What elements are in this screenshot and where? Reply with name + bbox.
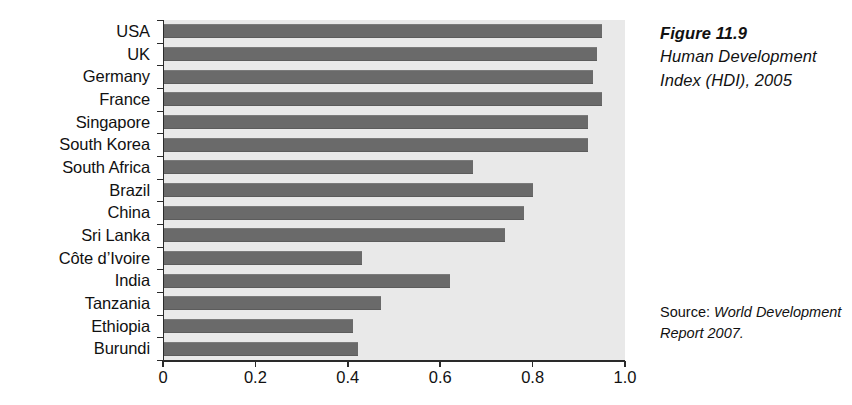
figure-caption: Figure 11.9 Human Development Index (HDI… xyxy=(660,22,850,92)
category-label: France xyxy=(0,88,157,111)
x-axis-tick-label: 0.8 xyxy=(521,368,544,386)
category-label: Burundi xyxy=(0,337,157,360)
x-axis-tick-label: 0 xyxy=(158,368,167,386)
category-label: Côte d’Ivoire xyxy=(0,247,157,270)
bar xyxy=(164,206,524,220)
bar xyxy=(164,342,358,356)
bar-chart: USAUKGermanyFranceSingaporeSouth KoreaSo… xyxy=(0,0,650,405)
bar xyxy=(164,296,381,310)
figure-number: Figure 11.9 xyxy=(660,22,850,45)
bar-row xyxy=(164,111,625,134)
x-axis-tick xyxy=(255,361,257,367)
plot-area xyxy=(164,20,625,360)
bar-row xyxy=(164,88,625,111)
category-label: USA xyxy=(0,20,157,43)
category-label: India xyxy=(0,269,157,292)
bar-row xyxy=(164,133,625,156)
category-label: UK xyxy=(0,43,157,66)
bar xyxy=(164,251,362,265)
bar-row xyxy=(164,179,625,202)
bar xyxy=(164,115,588,129)
category-label: Tanzania xyxy=(0,292,157,315)
bar-row xyxy=(164,43,625,66)
category-label: Singapore xyxy=(0,111,157,134)
bar-row xyxy=(164,337,625,360)
bar xyxy=(164,160,473,174)
x-axis-tick xyxy=(624,361,626,367)
bar-row xyxy=(164,224,625,247)
figure-container: USAUKGermanyFranceSingaporeSouth KoreaSo… xyxy=(0,0,852,405)
bar xyxy=(164,228,505,242)
x-axis-tick xyxy=(439,361,441,367)
category-label: South Africa xyxy=(0,156,157,179)
category-axis: USAUKGermanyFranceSingaporeSouth KoreaSo… xyxy=(0,20,157,360)
x-axis-tick xyxy=(347,361,349,367)
bar-row xyxy=(164,201,625,224)
bar xyxy=(164,319,353,333)
figure-title: Human Development Index (HDI), 2005 xyxy=(660,45,850,92)
bar xyxy=(164,24,602,38)
bar xyxy=(164,138,588,152)
x-axis-tick-labels: 00.20.40.60.81.0 xyxy=(163,368,625,394)
x-axis-tick-label: 0.2 xyxy=(244,368,267,386)
bar xyxy=(164,92,602,106)
x-axis-tick-label: 0.6 xyxy=(429,368,452,386)
x-axis-tick-label: 1.0 xyxy=(614,368,637,386)
bar xyxy=(164,47,597,61)
category-label: Brazil xyxy=(0,179,157,202)
category-label: China xyxy=(0,201,157,224)
category-label: Sri Lanka xyxy=(0,224,157,247)
bar-row xyxy=(164,65,625,88)
category-label: Germany xyxy=(0,65,157,88)
bar-row xyxy=(164,20,625,43)
source-note: Source: World Development Report 2007. xyxy=(660,302,846,344)
bar xyxy=(164,274,450,288)
x-axis-tick-label: 0.4 xyxy=(336,368,359,386)
bar-row xyxy=(164,315,625,338)
bar xyxy=(164,70,593,84)
category-label: Ethiopia xyxy=(0,315,157,338)
side-column: Figure 11.9 Human Development Index (HDI… xyxy=(660,0,852,405)
source-prefix-label: Source: xyxy=(660,304,714,320)
x-axis-tick xyxy=(162,361,164,367)
x-axis-ticks xyxy=(163,361,625,367)
bar-row xyxy=(164,156,625,179)
category-label: South Korea xyxy=(0,133,157,156)
bar xyxy=(164,183,533,197)
bar-row xyxy=(164,292,625,315)
bar-row xyxy=(164,269,625,292)
bar-row xyxy=(164,247,625,270)
x-axis-tick xyxy=(532,361,534,367)
